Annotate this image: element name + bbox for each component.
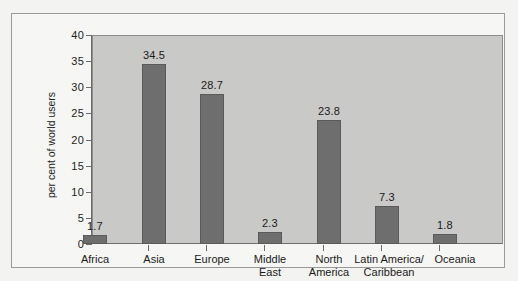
y-tick-label-10: 10 (50, 186, 84, 198)
bar-value-north-america: 23.8 (318, 105, 340, 117)
bar-asia[interactable] (142, 64, 166, 244)
y-tick-mark-40 (86, 35, 92, 36)
x-label-oceania: Oceania (435, 253, 476, 266)
y-tick-label-40: 40 (50, 29, 84, 41)
bar-oceania[interactable] (433, 234, 457, 244)
x-label-africa-line1: Africa (81, 253, 109, 265)
x-label-asia-line1: Asia (143, 253, 164, 265)
y-tick-label-5: 5 (50, 212, 84, 224)
x-label-middle-east-line2: East (254, 266, 286, 279)
x-tick-mark-2 (206, 245, 207, 251)
bar-value-asia: 34.5 (143, 49, 165, 61)
bar-value-oceania: 1.8 (437, 219, 453, 231)
y-tick-mark-30 (86, 87, 92, 88)
x-label-asia: Asia (143, 253, 164, 266)
bar-europe[interactable] (200, 94, 224, 244)
y-tick-label-0: 0 (50, 238, 84, 250)
y-tick-mark-35 (86, 61, 92, 62)
x-label-latin-america-caribbean-line1: Latin America/ (354, 253, 424, 265)
x-tick-mark-6 (439, 245, 440, 251)
x-label-europe-line1: Europe (194, 253, 229, 265)
y-tick-mark-25 (86, 113, 92, 114)
y-tick-label-30: 30 (50, 81, 84, 93)
bar-north-america[interactable] (317, 120, 341, 244)
y-tick-label-20: 20 (50, 134, 84, 146)
bar-value-africa: 1.7 (87, 220, 103, 232)
bar-value-europe: 28.7 (201, 79, 223, 91)
y-tick-mark-0 (86, 244, 92, 245)
bar-africa[interactable] (83, 235, 107, 244)
bar-value-middle-east: 2.3 (262, 217, 278, 229)
y-tick-label-25: 25 (50, 107, 84, 119)
chart-figure-frame: per cent of world users 40 35 30 25 20 1… (11, 13, 505, 268)
y-tick-mark-15 (86, 166, 92, 167)
x-tick-mark-5 (381, 245, 382, 251)
y-tick-label-15: 15 (50, 160, 84, 172)
y-tick-mark-10 (86, 192, 92, 193)
bar-latin-america-caribbean[interactable] (375, 206, 399, 244)
x-label-africa: Africa (81, 253, 109, 266)
x-label-middle-east: Middle East (254, 253, 286, 279)
x-label-europe: Europe (194, 253, 229, 266)
x-label-oceania-line1: Oceania (435, 253, 476, 265)
bar-middle-east[interactable] (258, 232, 282, 244)
x-tick-mark-1 (148, 245, 149, 251)
y-tick-mark-20 (86, 140, 92, 141)
y-tick-mark-5 (86, 218, 92, 219)
scan-page-background: per cent of world users 40 35 30 25 20 1… (0, 0, 518, 281)
x-label-north-america-line2: America (309, 266, 349, 279)
x-label-north-america-line1: North (316, 253, 343, 265)
y-tick-label-35: 35 (50, 55, 84, 67)
x-label-middle-east-line1: Middle (254, 253, 286, 265)
bar-value-latin-america-caribbean: 7.3 (379, 191, 395, 203)
x-label-latin-america-caribbean-line2: Caribbean (354, 266, 424, 279)
x-tick-mark-4 (323, 245, 324, 251)
x-label-north-america: North America (309, 253, 349, 279)
x-tick-mark-3 (264, 245, 265, 251)
x-label-latin-america-caribbean: Latin America/ Caribbean (354, 253, 424, 279)
